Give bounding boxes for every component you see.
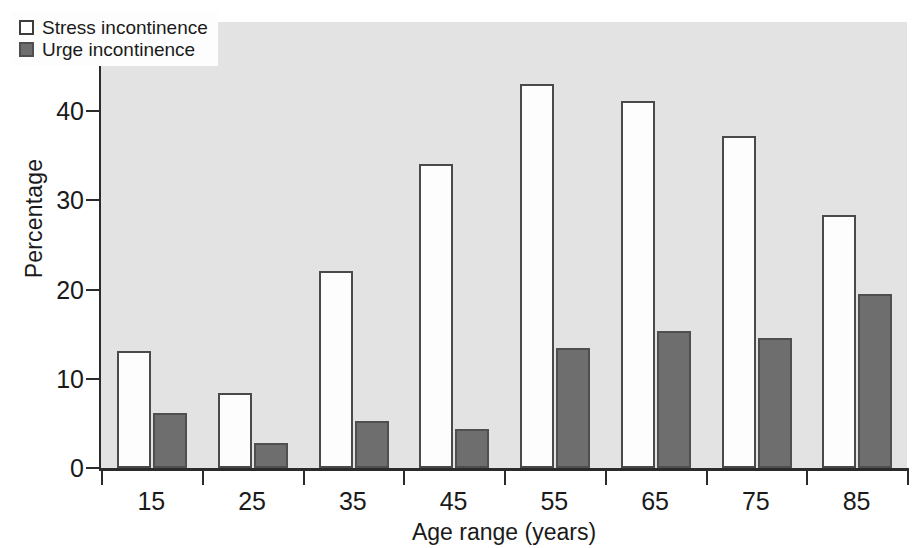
x-axis-tick (101, 471, 103, 485)
bar-group (706, 22, 807, 468)
filled-square-swatch-icon (19, 42, 34, 57)
x-axis-ticklabel: 85 (817, 489, 897, 514)
bar-group (605, 22, 706, 468)
bar-stress-incontinence (822, 215, 856, 468)
x-axis-ticklabel: 65 (615, 489, 695, 514)
bar-group (403, 22, 504, 468)
y-axis-ticklabel: 20 (18, 277, 84, 302)
bar-urge-incontinence (858, 294, 892, 468)
bar-urge-incontinence (758, 338, 792, 468)
bar-stress-incontinence (520, 84, 554, 468)
y-axis-tick (86, 378, 99, 380)
bar-group (806, 22, 907, 468)
bar-group (303, 22, 404, 468)
x-axis-tick (706, 471, 708, 485)
x-axis-ticklabel: 15 (111, 489, 191, 514)
bar-urge-incontinence (153, 413, 187, 468)
bar-stress-incontinence (621, 101, 655, 469)
y-axis-tick (86, 110, 99, 112)
y-axis-tick (86, 289, 99, 291)
x-axis-tick (907, 471, 909, 485)
x-axis-tick (202, 471, 204, 485)
bar-stress-incontinence (419, 164, 453, 468)
x-axis-ticklabel: 45 (414, 489, 494, 514)
x-axis-ticklabel: 35 (313, 489, 393, 514)
x-axis-tick (605, 471, 607, 485)
bar-urge-incontinence (657, 331, 691, 468)
bar-urge-incontinence (556, 348, 590, 468)
bar-urge-incontinence (455, 429, 489, 468)
bar-group (504, 22, 605, 468)
open-square-swatch-icon (19, 20, 34, 35)
y-axis-ticklabels: 01020304050 (18, 0, 84, 548)
x-axis-title: Age range (years) (101, 519, 907, 546)
chart-legend: Stress incontinence Urge incontinence (12, 11, 218, 66)
y-axis-tick (86, 467, 99, 469)
bar-group (202, 22, 303, 468)
bar-chart-figure: Percentage 01020304050 1525354555657585 … (0, 0, 914, 548)
x-axis-ticklabels: 1525354555657585 (101, 489, 907, 519)
legend-entry-stress-incontinence: Stress incontinence (19, 16, 208, 38)
y-axis-ticklabel: 10 (18, 366, 84, 391)
x-axis-ticklabel: 75 (716, 489, 796, 514)
bar-urge-incontinence (254, 443, 288, 468)
legend-label: Stress incontinence (42, 18, 208, 37)
legend-label: Urge incontinence (42, 40, 195, 59)
bar-stress-incontinence (218, 393, 252, 468)
y-axis-ticklabel: 30 (18, 188, 84, 213)
legend-entry-urge-incontinence: Urge incontinence (19, 38, 208, 60)
bar-group (101, 22, 202, 468)
bar-groups (101, 22, 907, 468)
y-axis-tick (86, 199, 99, 201)
bar-urge-incontinence (355, 421, 389, 468)
x-axis-ticks (101, 471, 907, 487)
x-axis-tick (403, 471, 405, 485)
x-axis-ticklabel: 25 (212, 489, 292, 514)
y-axis-ticks (86, 0, 100, 548)
bar-stress-incontinence (117, 351, 151, 468)
bar-stress-incontinence (319, 271, 353, 468)
plot-area (101, 22, 907, 468)
x-axis-tick (504, 471, 506, 485)
y-axis-ticklabel: 40 (18, 99, 84, 124)
bar-stress-incontinence (722, 136, 756, 468)
x-axis-tick (806, 471, 808, 485)
x-axis-tick (303, 471, 305, 485)
x-axis-ticklabel: 55 (514, 489, 594, 514)
y-axis-ticklabel: 0 (18, 456, 84, 481)
